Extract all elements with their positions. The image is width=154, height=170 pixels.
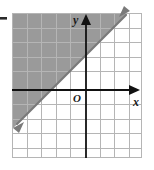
x-axis-label: x	[132, 95, 139, 109]
graph-canvas: y x O	[0, 0, 154, 170]
origin-label: O	[73, 92, 81, 104]
y-axis-label: y	[71, 13, 79, 27]
left-edge-tick	[0, 17, 7, 20]
coordinate-plane-figure: y x O	[0, 0, 154, 170]
